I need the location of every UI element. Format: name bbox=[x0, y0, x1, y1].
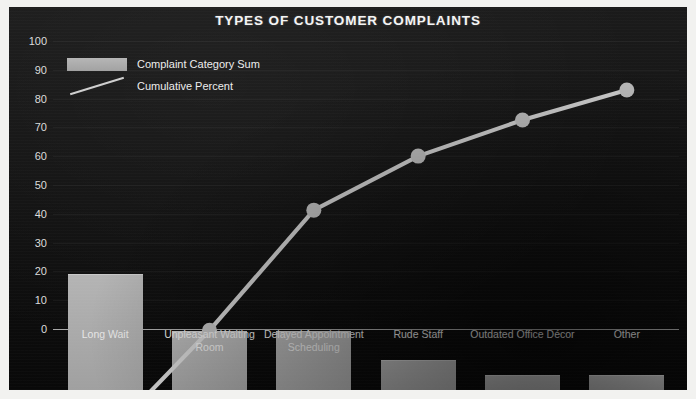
y-axis-tick-40: 40 bbox=[13, 208, 47, 220]
x-axis-label: Long Wait bbox=[53, 328, 157, 341]
y-axis-tick-30: 30 bbox=[13, 237, 47, 249]
chart-legend: Complaint Category Sum Cumulative Percen… bbox=[67, 53, 260, 97]
x-axis-label: Other bbox=[575, 328, 679, 341]
y-axis-tick-100: 100 bbox=[13, 35, 47, 47]
line-data-point-marker bbox=[619, 82, 634, 97]
legend-line-swatch-icon bbox=[67, 80, 127, 93]
x-axis-label: Outdated Office Décor bbox=[470, 328, 574, 341]
x-axis-label: Rude Staff bbox=[366, 328, 470, 341]
y-axis-tick-10: 10 bbox=[13, 294, 47, 306]
y-axis-tick-20: 20 bbox=[13, 265, 47, 277]
chart-frame: TYPES OF CUSTOMER COMPLAINTS 01020304050… bbox=[0, 0, 696, 399]
y-axis-tick-70: 70 bbox=[13, 121, 47, 133]
line-data-point-marker bbox=[411, 149, 426, 164]
y-axis-tick-80: 80 bbox=[13, 93, 47, 105]
legend-label-bar: Complaint Category Sum bbox=[137, 58, 260, 70]
legend-label-line: Cumulative Percent bbox=[137, 80, 233, 92]
legend-bar-swatch-icon bbox=[67, 58, 127, 71]
legend-item-bar: Complaint Category Sum bbox=[67, 53, 260, 75]
line-data-point-marker bbox=[306, 203, 321, 218]
y-axis-tick-0: 0 bbox=[13, 323, 47, 335]
legend-item-line: Cumulative Percent bbox=[67, 75, 260, 97]
line-data-point-marker bbox=[515, 113, 530, 128]
x-axis-label: Unpleasant Waiting Room bbox=[157, 328, 261, 354]
x-axis-label: Delayed Appointment Scheduling bbox=[262, 328, 366, 354]
pareto-chart: TYPES OF CUSTOMER COMPLAINTS 01020304050… bbox=[9, 7, 687, 390]
x-axis-labels: Long WaitUnpleasant Waiting RoomDelayed … bbox=[53, 324, 679, 390]
y-axis-tick-90: 90 bbox=[13, 64, 47, 76]
y-axis-tick-50: 50 bbox=[13, 179, 47, 191]
y-axis-tick-60: 60 bbox=[13, 150, 47, 162]
chart-title: TYPES OF CUSTOMER COMPLAINTS bbox=[9, 13, 687, 28]
